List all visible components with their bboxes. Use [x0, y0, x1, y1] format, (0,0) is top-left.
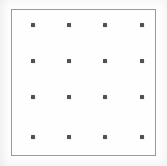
dot-r4-c4 [140, 135, 144, 139]
dot-r2-c2 [67, 59, 71, 63]
dot-r3-c4 [140, 95, 144, 99]
dot-r3-c1 [31, 95, 35, 99]
frame-edge-right [155, 9, 156, 156]
frame-edge-top [11, 9, 156, 10]
dot-r3-c2 [67, 95, 71, 99]
dot-r1-c2 [67, 23, 71, 27]
figure-canvas [0, 0, 167, 166]
dot-r1-c3 [103, 23, 107, 27]
dot-r2-c1 [31, 59, 35, 63]
dot-r3-c3 [103, 95, 107, 99]
frame-edge-left [11, 9, 12, 156]
frame-edge-bottom [11, 155, 156, 156]
dot-r2-c3 [103, 59, 107, 63]
dot-r1-c1 [31, 23, 35, 27]
dot-r4-c2 [67, 135, 71, 139]
dot-r4-c3 [103, 135, 107, 139]
dot-r1-c4 [140, 23, 144, 27]
dot-r2-c4 [140, 59, 144, 63]
dot-r4-c1 [31, 135, 35, 139]
